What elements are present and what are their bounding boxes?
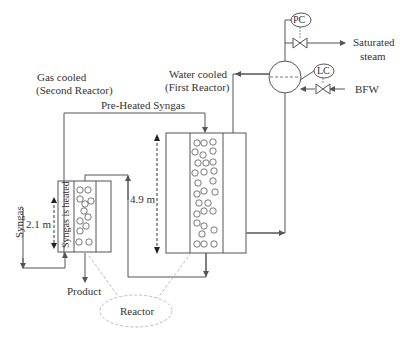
pc-valve-icon xyxy=(293,38,307,48)
intercooler-line xyxy=(85,175,206,277)
steam-label: steam xyxy=(360,50,386,63)
second-reactor-catalyst-particles xyxy=(76,187,94,245)
second-reactor-height-dimension xyxy=(51,197,57,249)
reactor-label: Reactor xyxy=(120,305,154,318)
lc-valve-icon xyxy=(316,84,330,94)
process-flow-diagram xyxy=(0,0,400,341)
saturated-steam-label: Saturated xyxy=(353,36,395,49)
steam-drum xyxy=(269,61,301,93)
syngas-feed-label: Syngas xyxy=(13,206,25,238)
height-second-label: 2.1 m xyxy=(26,218,51,231)
pc-label: PC xyxy=(293,13,305,26)
bfw-label: BFW xyxy=(355,83,379,96)
downcomer-line xyxy=(246,93,285,233)
syngas-feed-line xyxy=(23,208,65,268)
second-reactor-label: (Second Reactor) xyxy=(36,84,113,97)
lc-label: LC xyxy=(317,64,330,77)
preheated-syngas-line xyxy=(64,113,205,257)
first-reactor-catalyst-particles xyxy=(192,139,218,247)
riser-line xyxy=(233,74,269,133)
water-cooled-label: Water cooled xyxy=(169,68,227,81)
product-label: Product xyxy=(67,285,101,298)
first-reactor-label: (First Reactor) xyxy=(165,81,229,94)
height-first-label: 4.9 m xyxy=(130,193,155,206)
gas-cooled-label: Gas cooled xyxy=(37,71,86,84)
syngas-heated-label: Syngas is heated xyxy=(60,181,71,248)
preheated-syngas-label: Pre-Heated Syngas xyxy=(101,99,185,112)
